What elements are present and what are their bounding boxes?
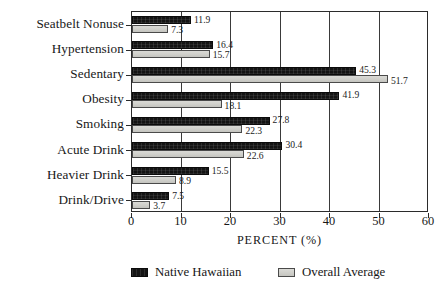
bar-native-hawaiian-heavier-drink xyxy=(132,167,209,175)
bar-value-label: 3.7 xyxy=(153,201,165,211)
bar-value-label: 41.9 xyxy=(342,90,359,100)
category-label-sedentary: Sedentary xyxy=(0,67,124,80)
bar-value-label: 11.9 xyxy=(194,15,210,25)
category-label-acute-drink: Acute Drink xyxy=(0,143,124,156)
legend-label: Native Hawaiian xyxy=(155,266,241,279)
bar-native-hawaiian-smoking xyxy=(132,117,270,125)
x-axis-tick-labels: 0102030405060 xyxy=(131,215,428,229)
x-tick-label-40: 40 xyxy=(323,215,335,227)
bar-native-hawaiian-drink-drive xyxy=(132,192,169,200)
bar-value-label: 22.6 xyxy=(247,151,264,161)
x-tick-label-0: 0 xyxy=(128,215,134,227)
bar-native-hawaiian-hypertension xyxy=(132,41,213,49)
bar-value-label: 30.4 xyxy=(285,140,302,150)
legend-swatch-icon xyxy=(131,268,148,277)
category-label-hypertension: Hypertension xyxy=(0,42,124,55)
bar-native-hawaiian-seatbelt-nonuse xyxy=(132,16,191,24)
bar-overall-average-seatbelt-nonuse xyxy=(132,25,168,33)
bar-overall-average-drink-drive xyxy=(132,201,150,209)
category-axis-labels: Seatbelt NonuseHypertensionSedentaryObes… xyxy=(0,11,124,212)
bar-value-label: 8.9 xyxy=(179,176,191,186)
bar-value-label: 7.3 xyxy=(171,25,183,35)
bar-overall-average-heavier-drink xyxy=(132,176,176,184)
bar-value-label: 45.3 xyxy=(359,65,376,75)
bar-value-label: 15.7 xyxy=(213,50,230,60)
category-label-obesity: Obesity xyxy=(0,92,124,105)
category-label-seatbelt-nonuse: Seatbelt Nonuse xyxy=(0,17,124,30)
chart-legend: Native HawaiianOverall Average xyxy=(131,266,428,284)
bar-overall-average-obesity xyxy=(132,100,222,108)
plot-area: 11.97.316.415.745.351.741.918.127.822.33… xyxy=(131,11,428,212)
bar-overall-average-acute-drink xyxy=(132,150,244,158)
horizontal-bar-chart: Seatbelt NonuseHypertensionSedentaryObes… xyxy=(0,0,447,300)
gridline-40 xyxy=(329,12,330,211)
category-label-smoking: Smoking xyxy=(0,117,124,130)
bar-value-label: 22.3 xyxy=(245,126,262,136)
bar-native-hawaiian-obesity xyxy=(132,92,339,100)
bar-overall-average-sedentary xyxy=(132,75,388,83)
category-label-drink-drive: Drink/Drive xyxy=(0,193,124,206)
bar-native-hawaiian-sedentary xyxy=(132,67,356,75)
gridline-30 xyxy=(280,12,281,211)
x-tick-label-10: 10 xyxy=(174,215,186,227)
x-tick-label-30: 30 xyxy=(273,215,285,227)
bar-value-label: 27.8 xyxy=(273,115,290,125)
legend-label: Overall Average xyxy=(302,266,385,279)
bar-value-label: 7.5 xyxy=(172,191,184,201)
bar-value-label: 15.5 xyxy=(212,166,229,176)
x-tick-label-20: 20 xyxy=(224,215,236,227)
bar-value-label: 51.7 xyxy=(391,76,408,86)
x-tick-label-50: 50 xyxy=(372,215,384,227)
legend-item-native-hawaiian[interactable]: Native Hawaiian xyxy=(131,266,241,279)
bar-value-label: 18.1 xyxy=(225,101,242,111)
gridline-50 xyxy=(379,12,380,211)
bar-overall-average-hypertension xyxy=(132,50,210,58)
x-axis-title: PERCENT (%) xyxy=(131,233,428,248)
legend-swatch-icon xyxy=(278,268,295,277)
bar-overall-average-smoking xyxy=(132,125,242,133)
bar-native-hawaiian-acute-drink xyxy=(132,142,282,150)
legend-item-overall-average[interactable]: Overall Average xyxy=(278,266,385,279)
category-label-heavier-drink: Heavier Drink xyxy=(0,168,124,181)
x-tick-label-60: 60 xyxy=(422,215,434,227)
bar-value-label: 16.4 xyxy=(216,40,233,50)
